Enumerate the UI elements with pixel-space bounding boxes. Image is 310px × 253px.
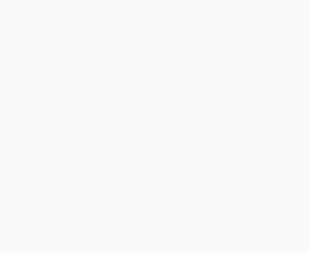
bar-segment-governance-pan-amazon	[230, 134, 275, 137]
y-tick-label-500: 500	[25, 17, 42, 27]
y-tick-mark-100	[44, 108, 48, 109]
y-tick-label-0: 0	[36, 125, 42, 135]
chart-title-subscript: 2	[77, 7, 82, 17]
y-tick-mark-200	[44, 87, 48, 88]
chart-title-main: Gt CO	[39, 1, 77, 16]
bar-segment-bau-brazilian-amazon	[147, 130, 192, 152]
y-axis-line	[48, 21, 49, 174]
y-tick-label-100: 100	[25, 103, 42, 113]
y-tick-label-neg100: -100	[22, 147, 42, 157]
y-tick-label-300: 300	[25, 60, 42, 70]
y-tick-label-400: 400	[25, 39, 42, 49]
y-tick-mark-0	[44, 130, 48, 131]
y-tick-mark-300	[44, 65, 48, 66]
annotation-pan-amazon: Pan Amazon	[118, 45, 175, 55]
y-tick-label-200: 200	[25, 82, 42, 92]
category-label-governance-2050: Cumulative Emissions under Governance by…	[192, 60, 289, 157]
bar-chart: Gt CO2 500 400 300 200 100 0 -100 -200 P…	[0, 0, 310, 253]
y-tick-mark-400	[44, 44, 48, 45]
y-tick-mark-neg200	[44, 173, 48, 174]
bar-segment-bau-pan-amazon	[147, 152, 192, 154]
y-tick-mark-neg100	[44, 152, 48, 153]
category-label-governance-2050-line2: under Governance by 2050	[200, 67, 289, 156]
x-tick-mark-0	[86, 131, 87, 134]
y-tick-label-neg200: -200	[22, 168, 42, 178]
chart-title: Gt CO2	[39, 1, 82, 17]
y-tick-mark-500	[44, 22, 48, 23]
bar-segment-carbon-stock-pan-amazon	[62, 35, 111, 76]
